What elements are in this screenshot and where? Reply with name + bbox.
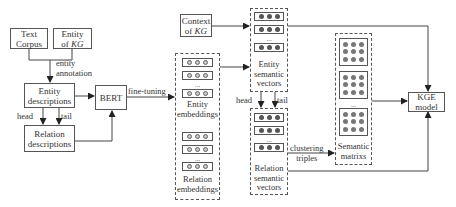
text-corpus-label: Text Corpus bbox=[16, 29, 42, 49]
entity-descriptions-node: Entitydescriptions bbox=[24, 83, 75, 108]
semantic-matrix bbox=[339, 71, 368, 99]
entity-of-kg-label-2: of bbox=[61, 39, 71, 49]
relation-descriptions-node: Relationdescriptions bbox=[24, 125, 75, 152]
relation-semantic-vectors-label: Relationsemanticvectors bbox=[250, 164, 288, 193]
tail-label-2: tail bbox=[277, 96, 288, 106]
ellipsis: ... bbox=[254, 36, 284, 43]
entity-embedding-vector bbox=[182, 89, 213, 98]
fine-tuning-label: fine-tuning bbox=[128, 87, 166, 97]
entity-semantic-vectors-label: Entitysemanticvectors bbox=[250, 60, 288, 89]
semantic-matrixs-label: Semanticmatrixs bbox=[335, 142, 372, 161]
head-label-2: head bbox=[236, 96, 252, 106]
clustering-triples-label: clusteringtriples bbox=[290, 144, 324, 163]
entity-semantic-vector bbox=[254, 12, 284, 21]
entity-of-kg-node: Entityof KG bbox=[53, 28, 92, 49]
relation-semantic-vector bbox=[254, 113, 284, 122]
kg-italic: KG bbox=[71, 39, 84, 49]
relation-embedding-vector bbox=[182, 162, 213, 171]
entity-annotation-label: entityannotation bbox=[56, 59, 92, 78]
relation-semantic-vector bbox=[254, 143, 284, 152]
relation-embedding-vector bbox=[182, 145, 213, 154]
relation-semantic-vector bbox=[254, 126, 284, 135]
entity-of-kg-label-1: Entity bbox=[61, 29, 83, 39]
entity-embedding-vector bbox=[182, 71, 213, 80]
entity-semantic-vector bbox=[254, 25, 284, 34]
bert-node: BERT bbox=[95, 85, 127, 110]
semantic-matrix bbox=[339, 108, 368, 136]
entity-embedding-vector bbox=[182, 58, 213, 67]
text-corpus-node: Text Corpus bbox=[10, 28, 48, 49]
entity-semantic-vector bbox=[254, 43, 284, 52]
relation-embedding-vector bbox=[182, 132, 213, 141]
head-label: head bbox=[17, 112, 33, 122]
tail-label: tail bbox=[61, 112, 72, 122]
context-of-kg-node: Contextof KG bbox=[180, 14, 212, 37]
entity-embeddings-label: Entityembeddings bbox=[175, 100, 220, 119]
relation-embeddings-label: Relationembeddings bbox=[175, 175, 220, 194]
ellipsis: ... bbox=[182, 82, 213, 89]
semantic-matrix bbox=[339, 38, 368, 66]
kge-model-node: KGEmodel bbox=[408, 92, 445, 112]
